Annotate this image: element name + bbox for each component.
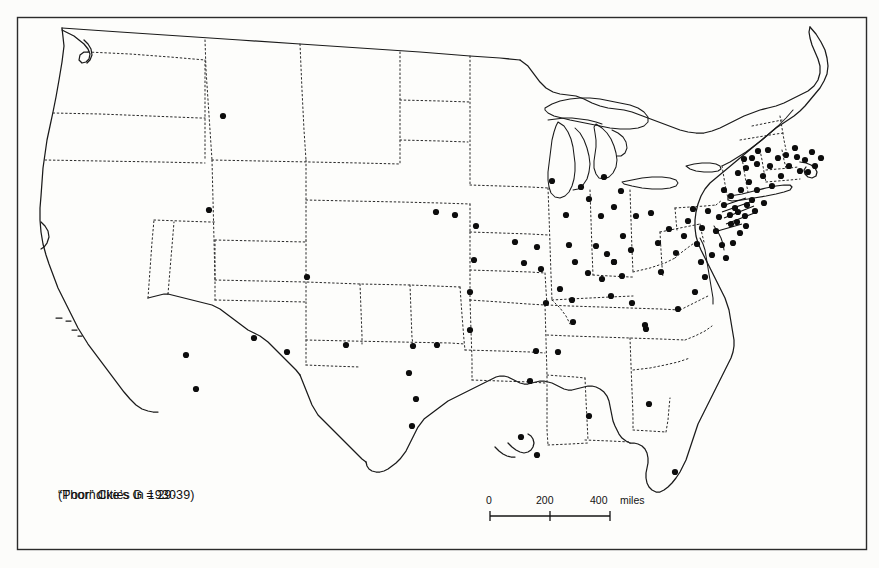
city-dot	[666, 226, 672, 232]
city-dot	[778, 173, 784, 179]
city-dot	[681, 233, 687, 239]
city-dot	[719, 242, 725, 248]
city-dot	[749, 197, 755, 203]
city-dot	[786, 163, 792, 169]
city-dot	[434, 342, 440, 348]
city-dot	[518, 434, 524, 440]
map-figure: “Poor” Cities in 1930 (Thorndike’s G = 2…	[0, 0, 879, 568]
city-dot	[767, 163, 773, 169]
city-dot	[433, 209, 439, 215]
city-dot	[721, 187, 727, 193]
city-dot	[538, 266, 544, 272]
city-dot	[409, 423, 415, 429]
city-dot	[578, 184, 584, 190]
city-dot	[698, 259, 704, 265]
city-dot	[601, 174, 607, 180]
city-dot	[604, 251, 610, 257]
city-dot	[471, 257, 477, 263]
city-dot	[563, 212, 569, 218]
city-dot	[746, 179, 752, 185]
city-dot	[769, 183, 775, 189]
city-dot	[754, 161, 760, 167]
city-dot	[611, 204, 617, 210]
city-dot	[521, 260, 527, 266]
city-dot	[586, 413, 592, 419]
scale-tick-400: 400	[590, 494, 608, 506]
city-dot	[721, 202, 727, 208]
city-dot	[727, 212, 733, 218]
city-dot	[406, 370, 412, 376]
city-dot	[566, 242, 572, 248]
city-dot	[713, 228, 719, 234]
city-dot	[692, 289, 698, 295]
city-dot	[802, 157, 808, 163]
city-dot	[555, 349, 561, 355]
city-dot	[655, 240, 661, 246]
city-dot	[467, 327, 473, 333]
city-dot	[628, 247, 634, 253]
city-dot	[572, 259, 578, 265]
scale-tick-200: 200	[536, 494, 554, 506]
figure-frame	[18, 18, 867, 550]
city-dot	[716, 214, 722, 220]
city-dot	[629, 300, 635, 306]
city-dot	[741, 156, 747, 162]
city-dot	[765, 147, 771, 153]
city-dot	[473, 223, 479, 229]
city-dot	[734, 219, 740, 225]
city-dot	[193, 386, 199, 392]
city-dot	[534, 244, 540, 250]
city-dot	[728, 221, 734, 227]
city-dot	[343, 342, 349, 348]
city-dot	[744, 202, 750, 208]
city-dot	[413, 396, 419, 402]
city-dot	[284, 349, 290, 355]
city-dot	[760, 173, 766, 179]
city-dot	[675, 306, 681, 312]
city-dot	[646, 401, 652, 407]
city-dot	[754, 187, 760, 193]
city-dot	[755, 148, 761, 154]
city-dot	[619, 273, 625, 279]
city-dot	[705, 208, 711, 214]
city-dot	[633, 213, 639, 219]
city-dot	[410, 343, 416, 349]
city-dot	[648, 210, 654, 216]
scale-units-label: miles	[620, 494, 645, 506]
city-dot	[783, 152, 789, 158]
city-dot	[672, 469, 678, 475]
city-dot	[452, 212, 458, 218]
city-dot	[743, 165, 749, 171]
city-dot	[586, 196, 592, 202]
city-dot	[749, 155, 755, 161]
city-dot	[809, 149, 815, 155]
city-dot	[611, 259, 617, 265]
city-dot	[699, 225, 705, 231]
city-dot	[685, 218, 691, 224]
us-dot-map	[0, 0, 879, 568]
city-dot	[585, 270, 591, 276]
city-dot	[557, 286, 563, 292]
scale-tick-0: 0	[486, 494, 492, 506]
city-dot	[658, 269, 664, 275]
city-dot	[730, 240, 736, 246]
city-dot	[543, 300, 549, 306]
city-dot	[728, 193, 734, 199]
city-dot	[735, 209, 741, 215]
city-dot	[723, 255, 729, 261]
city-dot	[599, 276, 605, 282]
city-dot	[598, 213, 604, 219]
city-dot	[304, 274, 310, 280]
city-dot	[220, 113, 226, 119]
city-dot	[742, 213, 748, 219]
city-dot	[794, 154, 800, 160]
city-dot	[512, 239, 518, 245]
city-dot	[251, 335, 257, 341]
caption-line-2: (Thorndike’s G = 29·39)	[58, 487, 195, 504]
city-dot	[608, 293, 614, 299]
city-dot	[534, 452, 540, 458]
city-dot	[569, 297, 575, 303]
city-dot	[593, 243, 599, 249]
city-dot	[752, 208, 758, 214]
city-dot	[818, 155, 824, 161]
